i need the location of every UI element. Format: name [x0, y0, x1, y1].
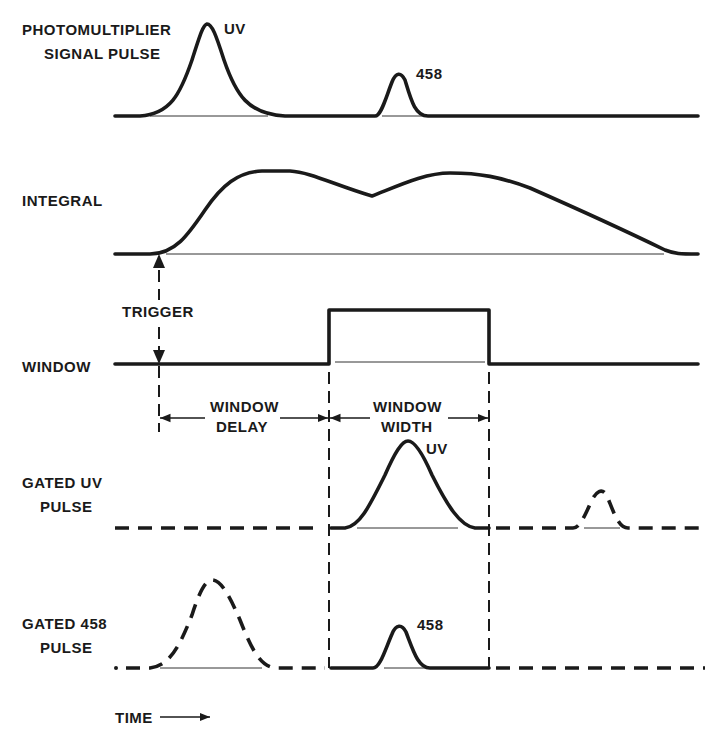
row-label-window: WINDOW — [22, 358, 91, 375]
gated-458-trace — [114, 580, 705, 670]
row-label-pm-line1: PHOTOMULTIPLIER — [22, 21, 171, 38]
window-width-label-line1: WINDOW — [373, 398, 442, 415]
gated-458-label: 458 — [417, 616, 444, 633]
pm-uv-label: UV — [224, 20, 246, 37]
trigger-label: TRIGGER — [122, 303, 194, 320]
gated-uv-label: UV — [426, 440, 448, 457]
row-label-gated-uv-line1: GATED UV — [22, 474, 102, 491]
row-label-pm-line2: SIGNAL PULSE — [44, 45, 161, 62]
pm-458-label: 458 — [416, 65, 443, 82]
trigger-arrow-down-icon — [153, 350, 165, 364]
row-label-gated-458-line1: GATED 458 — [22, 615, 107, 632]
gated-uv-trace — [115, 441, 705, 528]
window-delay-label-line2: DELAY — [216, 418, 268, 435]
window-width-label-line2: WIDTH — [381, 418, 433, 435]
timing-diagram: PHOTOMULTIPLIER SIGNAL PULSE INTEGRAL WI… — [0, 0, 718, 735]
integral-trace — [115, 171, 698, 254]
row-label-gated-uv-line2: PULSE — [40, 498, 93, 515]
time-axis-label: TIME — [115, 709, 153, 726]
trigger-arrow-up-icon — [153, 254, 165, 268]
row-label-integral: INTEGRAL — [22, 192, 103, 209]
row-label-gated-458-line2: PULSE — [40, 639, 93, 656]
pm-signal-trace — [115, 24, 698, 116]
window-delay-label-line1: WINDOW — [210, 398, 279, 415]
